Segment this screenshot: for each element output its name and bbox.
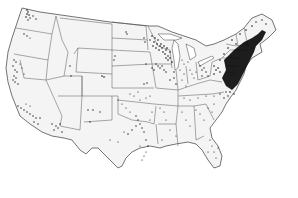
us-dot-density-map [0,0,298,198]
